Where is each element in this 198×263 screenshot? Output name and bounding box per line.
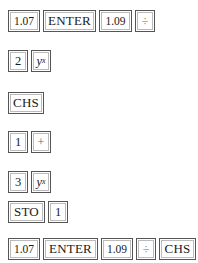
key-2[interactable]: 2 — [8, 50, 28, 72]
key-divide[interactable]: ÷ — [136, 238, 156, 260]
key-1-07[interactable]: 1.07 — [8, 10, 40, 32]
key-divide[interactable]: ÷ — [135, 10, 155, 32]
key-plus[interactable]: + — [31, 131, 51, 153]
key-1[interactable]: 1 — [8, 131, 28, 153]
key-sto[interactable]: STO — [8, 201, 45, 223]
keystroke-sequence-6: STO 1 — [8, 201, 71, 223]
keystroke-sequence-4: 1 + — [8, 131, 54, 153]
key-y-power-x[interactable]: yx — [31, 171, 51, 193]
keystroke-sequence-5: 3 yx — [8, 171, 54, 193]
keystroke-sequence-7: 1.07 ENTER 1.09 ÷ CHS — [8, 238, 198, 260]
key-1[interactable]: 1 — [48, 201, 68, 223]
key-1-09[interactable]: 1.09 — [101, 238, 133, 260]
keystroke-sequence-1: 1.07 ENTER 1.09 ÷ — [8, 10, 158, 32]
key-chs[interactable]: CHS — [159, 238, 196, 260]
key-enter[interactable]: ENTER — [43, 238, 98, 260]
key-chs[interactable]: CHS — [8, 92, 44, 114]
key-3[interactable]: 3 — [8, 171, 28, 193]
keystroke-sequence-2: 2 yx — [8, 50, 54, 72]
key-enter[interactable]: ENTER — [43, 10, 96, 32]
key-y-power-x[interactable]: yx — [31, 50, 51, 72]
key-y-power-x-exponent: x — [42, 177, 46, 186]
key-1-09[interactable]: 1.09 — [99, 10, 132, 32]
key-y-power-x-exponent: x — [42, 56, 46, 65]
keystroke-sequence-3: CHS — [8, 92, 47, 114]
key-1-07[interactable]: 1.07 — [8, 238, 40, 260]
